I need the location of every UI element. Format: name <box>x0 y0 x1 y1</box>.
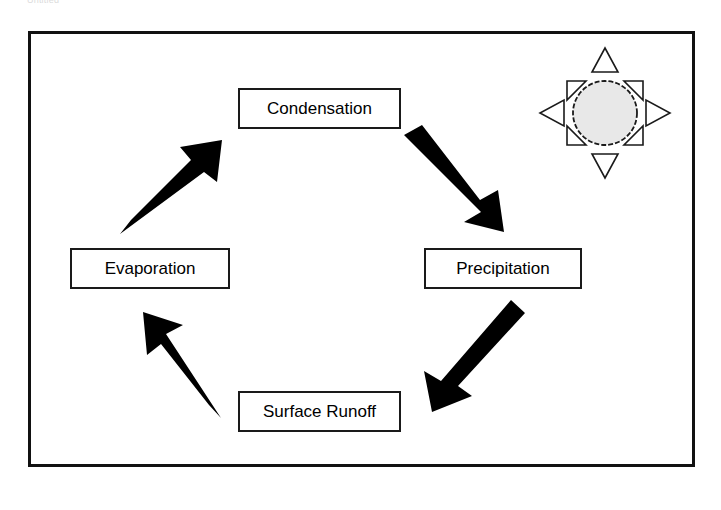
node-condensation-label: Condensation <box>261 99 378 119</box>
diagram-canvas: Untitled Condensation Precipitation Surf… <box>0 0 721 510</box>
sun-disc <box>573 81 637 145</box>
node-precipitation[interactable]: Precipitation <box>424 248 582 289</box>
node-surface-runoff-label: Surface Runoff <box>257 402 382 422</box>
node-surface-runoff[interactable]: Surface Runoff <box>238 391 401 432</box>
node-condensation[interactable]: Condensation <box>238 88 401 129</box>
node-evaporation-label: Evaporation <box>99 259 202 279</box>
node-evaporation[interactable]: Evaporation <box>70 248 230 289</box>
top-caption: Untitled <box>27 0 59 5</box>
node-precipitation-label: Precipitation <box>450 259 556 279</box>
